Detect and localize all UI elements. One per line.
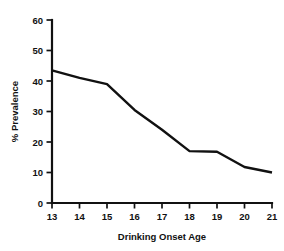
y-tick-label-30: 30	[32, 106, 43, 117]
figure-container: 60 50 40 30 20 10 0 13 14 15 16 17	[0, 0, 284, 251]
line-chart: 60 50 40 30 20 10 0 13 14 15 16 17	[0, 0, 284, 251]
y-tick-label-0: 0	[38, 198, 43, 209]
x-axis-title: Drinking Onset Age	[118, 231, 206, 242]
x-tick-label-16: 16	[129, 211, 140, 222]
x-tick-label-20: 20	[239, 211, 250, 222]
y-axis-title: % Prevalence	[9, 81, 20, 142]
x-tick-label-14: 14	[74, 211, 85, 222]
y-tick-label-60: 60	[32, 15, 43, 26]
x-tick-label-15: 15	[102, 211, 113, 222]
x-tick-label-17: 17	[157, 211, 168, 222]
x-tick-label-13: 13	[47, 211, 58, 222]
y-tick-label-50: 50	[32, 45, 43, 56]
y-tick-label-40: 40	[32, 76, 43, 87]
x-axis-tick-labels: 13 14 15 16 17 18 19 20 21	[47, 211, 278, 222]
y-tick-label-10: 10	[32, 167, 43, 178]
x-tick-label-18: 18	[184, 211, 195, 222]
y-tick-label-20: 20	[32, 137, 43, 148]
x-tick-label-21: 21	[267, 211, 278, 222]
x-tick-label-19: 19	[212, 211, 223, 222]
